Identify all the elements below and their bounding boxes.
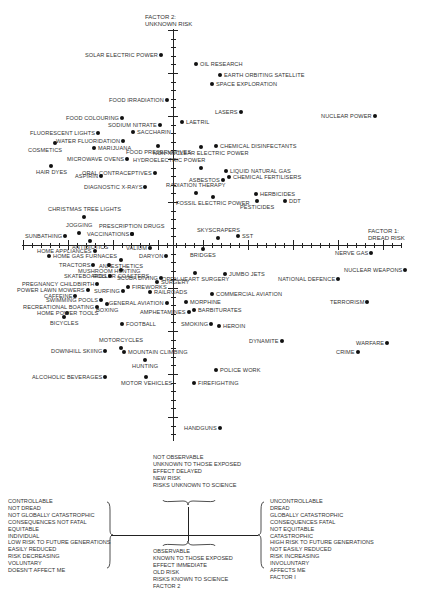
data-point-label: SOLAR ELECTRIC POWER [85, 52, 158, 59]
y-axis-tick [171, 142, 176, 143]
x-axis-tick [311, 243, 312, 248]
y-axis-tick [171, 262, 176, 263]
data-point-marker [373, 114, 377, 118]
data-point-marker [130, 232, 134, 236]
y-axis-tick [168, 245, 178, 246]
left-brace-icon [106, 502, 114, 568]
y-axis-tick [171, 133, 176, 134]
y-axis-tick [171, 254, 176, 255]
data-point-marker [108, 274, 112, 278]
data-point-label: RADIATION THERAPY [166, 182, 226, 189]
data-point-marker [194, 191, 198, 195]
data-point-label: FLUORESCENT LIGHTS [30, 130, 95, 137]
data-point-marker [99, 298, 103, 302]
y-axis-tick [171, 400, 176, 401]
data-point-label: SKATEBOARDS [64, 273, 107, 280]
x-axis-tick [248, 240, 249, 250]
legend-line: RISK DECREASING [8, 553, 111, 560]
legend-line: INVOLUNTARY [270, 560, 374, 567]
data-point-marker [77, 231, 81, 235]
data-point-label: NATIONAL DEFENCE [278, 276, 335, 283]
x-axis-tick [32, 243, 33, 248]
legend-line: EFFECT DELAYED [153, 468, 241, 475]
legend-line: OLD RISK [153, 569, 233, 576]
data-point-marker [211, 195, 215, 199]
legend-line: CATASTROPHIC [270, 533, 374, 540]
x-axis-tick [365, 243, 366, 248]
data-point-label: VALIUM [126, 245, 147, 252]
data-point-marker [180, 120, 184, 124]
data-point-marker [236, 234, 240, 238]
data-point-marker [165, 98, 169, 102]
data-point-marker [120, 116, 124, 120]
data-point-label: FOOTBALL [126, 321, 156, 328]
data-point-marker [193, 271, 197, 275]
data-point-label: NUCLEAR WEAPONS [344, 267, 402, 274]
y-axis-tick [171, 107, 176, 108]
data-point-label: CHEMICAL DISINFECTANTS [220, 143, 296, 150]
data-point-label: PRESCRIPTION DRUGS [99, 223, 165, 230]
x-axis-title-line1: FACTOR 1: [368, 228, 405, 235]
x-axis-tick [239, 243, 240, 248]
y-axis-tick [171, 340, 176, 341]
data-point-label: DIAGNOSTIC X-RAYS [84, 184, 142, 191]
y-axis-tick [171, 271, 176, 272]
data-point-marker [159, 53, 163, 57]
data-point-marker [280, 339, 284, 343]
legend-line: INDIVIDUAL [8, 533, 111, 540]
y-axis-tick [168, 30, 178, 31]
risk-perception-scatter-plot: FACTOR 2: UNKNOWN RISK FACTOR 1: DREAD R… [0, 0, 425, 440]
legend-line: FACTOR 2 [153, 583, 233, 589]
y-axis-tick [171, 365, 176, 366]
data-point-label: POLICE WORK [220, 367, 261, 374]
data-point-label: DARYON [139, 253, 163, 260]
data-point-marker [153, 171, 157, 175]
data-point-label: HAIR DYES [36, 169, 67, 176]
data-point-marker [187, 310, 191, 314]
data-point-marker [125, 157, 129, 161]
data-point-marker [63, 234, 67, 238]
y-axis-tick [171, 305, 176, 306]
legend-line: NOT EASILY REDUCED [270, 546, 374, 553]
legend-line: LOW RISK TO FUTURE GENERATIONS [8, 539, 111, 546]
data-point-marker [217, 324, 221, 328]
data-point-label: SMOKING [181, 321, 208, 328]
y-axis-tick [171, 228, 176, 229]
data-point-label: HERBICIDES [260, 191, 295, 198]
y-axis-tick [171, 434, 176, 435]
x-axis-tick [221, 243, 222, 248]
data-point-label: DYNAMITE [249, 338, 279, 345]
legend-line: GLOBALLY CATASTROPHIC [270, 512, 374, 519]
y-axis-tick [171, 176, 176, 177]
x-axis-tick [194, 243, 195, 248]
legend-vertical-connector [188, 507, 189, 541]
data-point-marker [216, 236, 220, 240]
data-point-label: FOOD COLOURING [66, 115, 119, 122]
data-point-marker [369, 251, 373, 255]
legend-line: AFFECTS ME [270, 567, 374, 574]
x-axis-tick [122, 243, 123, 248]
y-axis-tick [171, 426, 176, 427]
data-point-label: NON-NUCLEAR ELECTRIC POWER [153, 150, 249, 157]
x-axis-tick [257, 243, 258, 248]
data-point-label: NERVE GAS [335, 250, 368, 257]
top-brace-icon [163, 498, 215, 506]
data-point-label: COMMERCIAL AVIATION [216, 291, 282, 298]
x-axis-tick [284, 243, 285, 248]
y-axis-tick [171, 322, 176, 323]
data-point-marker [158, 123, 162, 127]
data-point-label: CHRISTMAS TREE LIGHTS [48, 206, 121, 213]
data-point-label: RAILROADS [154, 289, 187, 296]
legend-right-block: UNCONTROLLABLEDREADGLOBALLY CATASTROPHIC… [270, 498, 374, 581]
data-point-label: JUMBO JETS [229, 271, 265, 278]
data-point-marker [210, 82, 214, 86]
x-axis-tick [230, 243, 231, 248]
y-axis-tick [171, 297, 176, 298]
data-point-label: MOTORCYCLES [99, 337, 143, 344]
data-point-label: DOWNHILL SKIING [51, 348, 102, 355]
data-point-label: BARBITURATES [198, 307, 242, 314]
legend-line: RISKS UNKNOWN TO SCIENCE [153, 482, 241, 489]
data-point-label: CHEMICAL FERTILISERS [233, 174, 301, 181]
data-point-label: BRIDGES [190, 252, 216, 259]
data-point-label: LAETRIL [186, 119, 209, 126]
